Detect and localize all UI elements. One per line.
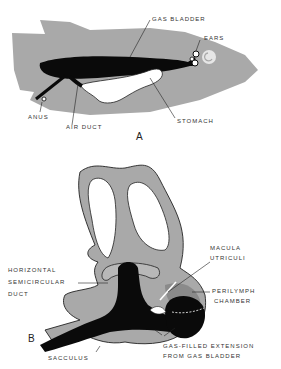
label-horizontal-3: DUCT	[8, 291, 29, 297]
label-perilymph-1: PERILYMPH	[212, 288, 255, 294]
anus	[42, 97, 46, 101]
label-sacculus: SACCULUS	[48, 355, 89, 361]
label-ears: EARS	[204, 35, 224, 41]
label-gas-extension-2: FROM GAS BLADDER	[163, 353, 241, 359]
panel-label-b: B	[28, 333, 35, 344]
diagram-canvas: GAS BLADDER EARS ANUS AIR DUCT STOMACH A	[0, 0, 281, 369]
panel-b: MACULA UTRICULI HORIZONTAL SEMICIRCULAR …	[8, 165, 255, 361]
label-horizontal-1: HORIZONTAL	[8, 267, 56, 273]
label-air-duct: AIR DUCT	[66, 124, 102, 130]
label-perilymph-2: CHAMBER	[214, 298, 251, 304]
label-gas-extension-1: GAS-FILLED EXTENSION	[163, 343, 254, 349]
panel-label-a: A	[136, 131, 143, 142]
label-macula-utriculi-1: MACULA	[210, 245, 241, 251]
label-stomach: STOMACH	[177, 118, 214, 124]
ear-upper	[193, 51, 199, 57]
label-macula-utriculi-2: UTRICULI	[210, 255, 246, 261]
label-horizontal-2: SEMICIRCULAR	[8, 279, 65, 285]
label-gas-bladder: GAS BLADDER	[152, 16, 206, 22]
gas-filled-extension	[165, 296, 205, 338]
label-anus: ANUS	[28, 114, 49, 120]
panel-a: GAS BLADDER EARS ANUS AIR DUCT STOMACH A	[12, 16, 258, 142]
